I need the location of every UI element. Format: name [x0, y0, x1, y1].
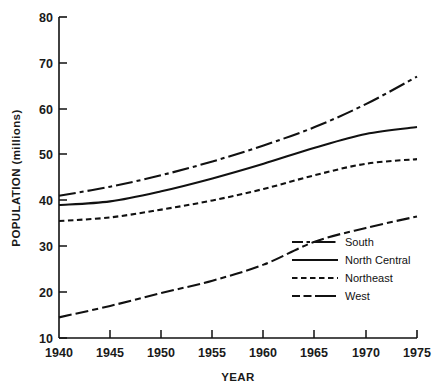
- legend-label-south: South: [345, 236, 374, 248]
- series-line-north-central: [59, 127, 417, 205]
- x-axis-title: YEAR: [221, 371, 255, 383]
- series-line-south: [59, 77, 417, 196]
- x-tick-label-1950: 1950: [147, 346, 175, 360]
- y-tick-label-40: 40: [39, 194, 53, 208]
- x-ticks: [110, 330, 366, 338]
- y-tick-label-80: 80: [39, 11, 53, 25]
- y-tick-label-10: 10: [39, 332, 53, 346]
- legend-label-west: West: [345, 290, 370, 302]
- y-tick-label-60: 60: [39, 103, 53, 117]
- y-axis-title: POPULATION (millions): [10, 109, 22, 246]
- legend-label-north-central: North Central: [345, 254, 410, 266]
- series-line-northeast: [59, 159, 417, 221]
- x-tick-labels: 1940 1945 1950 1955 1960 1965 1970 1975: [45, 346, 431, 360]
- y-tick-label-20: 20: [39, 286, 53, 300]
- x-tick-label-1955: 1955: [198, 346, 226, 360]
- x-tick-label-1970: 1970: [352, 346, 380, 360]
- x-tick-label-1965: 1965: [300, 346, 328, 360]
- x-tick-label-1945: 1945: [96, 346, 124, 360]
- x-tick-label-1960: 1960: [249, 346, 277, 360]
- y-tick-label-70: 70: [39, 57, 53, 71]
- legend-label-northeast: Northeast: [345, 272, 393, 284]
- x-tick-label-1940: 1940: [45, 346, 73, 360]
- y-tick-label-30: 30: [39, 240, 53, 254]
- y-ticks: [59, 63, 67, 338]
- y-tick-labels: 80 70 60 50 40 30 20 10: [39, 11, 53, 346]
- chart-canvas: 80 70 60 50 40 30 20 10 1940 1945 1950 1…: [0, 0, 439, 391]
- y-tick-label-50: 50: [39, 148, 53, 162]
- legend-entry-north-central: North Central: [292, 254, 410, 266]
- legend-entry-west: West: [292, 290, 370, 302]
- legend: South North Central Northeast West: [292, 236, 410, 302]
- legend-entry-northeast: Northeast: [292, 272, 393, 284]
- series-line-west: [59, 216, 417, 317]
- x-tick-label-1975: 1975: [403, 346, 431, 360]
- population-line-chart: 80 70 60 50 40 30 20 10 1940 1945 1950 1…: [0, 0, 439, 391]
